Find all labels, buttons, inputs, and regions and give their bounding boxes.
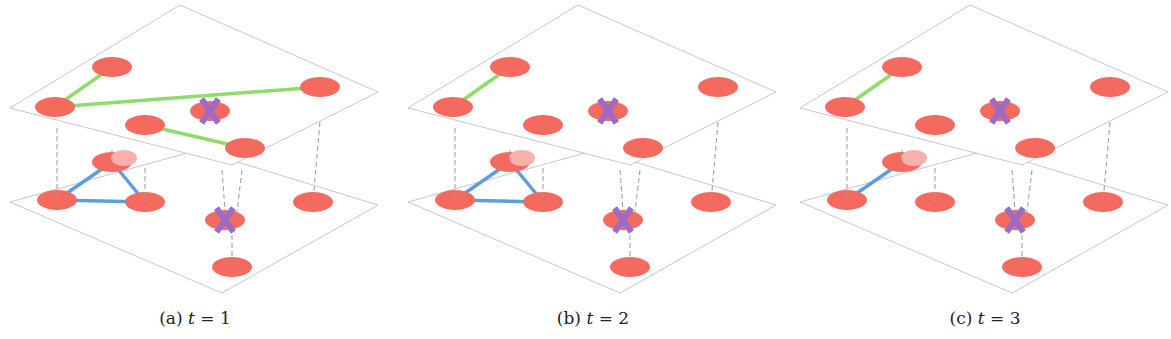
top-layer-node: [490, 57, 530, 77]
ghost-node: [111, 150, 137, 166]
bottom-layer-plane: [10, 150, 378, 293]
panel-b: (b) t = 2: [398, 0, 788, 339]
ghost-node: [509, 150, 535, 166]
top-layer-node: [825, 97, 865, 117]
multilayer-network-t2: [398, 0, 788, 300]
top-layer-node: [698, 77, 738, 97]
caption-value: = 2: [593, 308, 629, 328]
top-layer-node: [523, 115, 563, 135]
top-layer-node: [125, 115, 165, 135]
top-layer-node: [300, 77, 340, 97]
bottom-layer-plane: [408, 150, 776, 293]
multilayer-network-t1: [0, 0, 390, 300]
caption-label: (c): [950, 308, 973, 328]
caption-value: = 1: [195, 308, 231, 328]
caption-label: (b): [557, 308, 581, 328]
bottom-layer-plane: [800, 150, 1168, 293]
caption-a: (a) t = 1: [0, 308, 390, 328]
panel-a: (a) t = 1: [0, 0, 390, 339]
caption-c: (c) t = 3: [790, 308, 1171, 328]
caption-label: (a): [159, 308, 182, 328]
top-layer-node: [433, 97, 473, 117]
multilayer-network-t3: [790, 0, 1171, 300]
caption-b: (b) t = 2: [398, 308, 788, 328]
top-layer-node: [1015, 138, 1055, 158]
top-layer-node: [92, 57, 132, 77]
caption-variable: t: [978, 308, 985, 328]
top-layer-node: [623, 138, 663, 158]
top-layer-node: [882, 57, 922, 77]
top-layer-node: [225, 138, 265, 158]
caption-variable: t: [188, 308, 195, 328]
top-layer-node: [35, 97, 75, 117]
caption-value: = 3: [985, 308, 1021, 328]
top-layer-node: [1090, 77, 1130, 97]
top-layer-node: [915, 115, 955, 135]
panel-c: (c) t = 3: [790, 0, 1171, 339]
ghost-node: [901, 150, 927, 166]
